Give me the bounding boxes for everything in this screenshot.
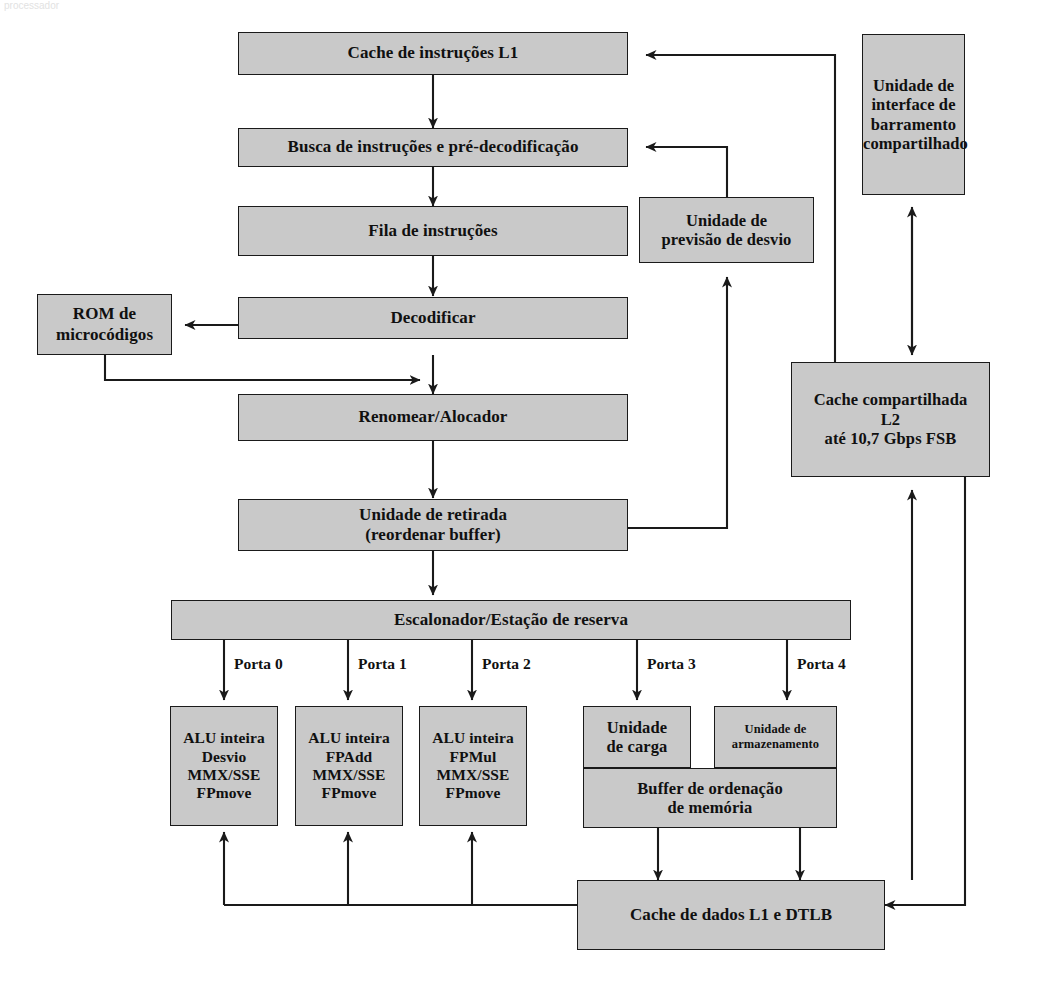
exec-unit-2-line1: ALU inteira [424, 729, 522, 747]
branch-prediction-line1: Unidade de [644, 211, 809, 230]
bus-interface-unit-line2: interface de [863, 95, 964, 114]
branch-prediction-box: Unidade de previsão de desvio [639, 197, 814, 263]
memory-order-buffer-box: Buffer de ordenação de memória [583, 768, 837, 828]
bus-interface-unit-line3: barramento [863, 115, 964, 134]
retirement-unit-box: Unidade de retirada (reordenar buffer) [238, 499, 628, 551]
rename-allocate-box: Renomear/Alocador [238, 394, 628, 441]
instruction-queue-box: Fila de instruções [238, 206, 628, 256]
store-unit-line2: armazenamento [719, 737, 832, 752]
exec-unit-0-line3: MMX/SSE [175, 766, 273, 784]
memory-order-buffer-line1: Buffer de ordenação [588, 779, 832, 798]
architecture-diagram: processador [0, 0, 1043, 986]
load-unit-line1: Unidade [588, 718, 686, 737]
microcode-rom-box: ROM de microcódigos [37, 294, 172, 355]
exec-unit-port2-box: ALU inteira FPMul MMX/SSE FPmove [419, 706, 527, 826]
exec-unit-2-line2: FPMul [424, 748, 522, 766]
bus-interface-unit-line1: Unidade de [863, 76, 964, 95]
load-unit-line2: de carga [588, 737, 686, 756]
scan-artifact-text: processador [4, 0, 194, 12]
exec-unit-1-line1: ALU inteira [300, 729, 398, 747]
porta-1-label: Porta 1 [358, 655, 407, 673]
exec-unit-port1-box: ALU inteira FPAdd MMX/SSE FPmove [295, 706, 403, 826]
porta-4-label: Porta 4 [797, 655, 846, 673]
exec-unit-port0-box: ALU inteira Desvio MMX/SSE FPmove [170, 706, 278, 826]
exec-unit-1-line4: FPmove [300, 784, 398, 802]
exec-unit-0-line1: ALU inteira [175, 729, 273, 747]
decode-box: Decodificar [238, 297, 628, 339]
exec-unit-2-line3: MMX/SSE [424, 766, 522, 784]
porta-3-label: Porta 3 [647, 655, 696, 673]
l2-shared-cache-line2: L2 [796, 410, 985, 429]
fetch-predecode-label: Busca de instruções e pré-decodificação [239, 137, 627, 157]
exec-unit-0-line4: FPmove [175, 784, 273, 802]
porta-0-label: Porta 0 [234, 655, 283, 673]
microcode-rom-line2: microcódigos [42, 325, 167, 345]
branch-prediction-line2: previsão de desvio [644, 230, 809, 249]
rename-allocate-label: Renomear/Alocador [239, 407, 627, 427]
retirement-unit-line1: Unidade de retirada [243, 505, 623, 525]
exec-unit-0-line2: Desvio [175, 748, 273, 766]
exec-unit-1-line2: FPAdd [300, 748, 398, 766]
l1-instruction-cache-box: Cache de instruções L1 [238, 32, 628, 75]
store-unit-line1: Unidade de [719, 722, 832, 737]
retirement-unit-line2: (reordenar buffer) [243, 525, 623, 545]
instruction-queue-label: Fila de instruções [239, 221, 627, 241]
l1-instruction-cache-label: Cache de instruções L1 [239, 43, 627, 63]
fetch-predecode-box: Busca de instruções e pré-decodificação [238, 128, 628, 167]
l2-shared-cache-line1: Cache compartilhada [796, 390, 985, 409]
l2-shared-cache-line3: até 10,7 Gbps FSB [796, 429, 985, 448]
scheduler-box: Escalonador/Estação de reserva [171, 600, 851, 640]
exec-unit-2-line4: FPmove [424, 784, 522, 802]
porta-2-label: Porta 2 [482, 655, 531, 673]
scheduler-label: Escalonador/Estação de reserva [172, 610, 850, 630]
microcode-rom-line1: ROM de [42, 304, 167, 324]
bus-interface-unit-box: Unidade de interface de barramento compa… [862, 34, 965, 195]
store-unit-box: Unidade de armazenamento [714, 706, 837, 768]
memory-order-buffer-line2: de memória [588, 798, 832, 817]
bus-interface-unit-line4: compartilhado [863, 134, 964, 153]
l1-data-cache-box: Cache de dados L1 e DTLB [577, 880, 885, 950]
decode-label: Decodificar [239, 308, 627, 328]
load-unit-box: Unidade de carga [583, 706, 691, 768]
l2-shared-cache-box: Cache compartilhada L2 até 10,7 Gbps FSB [791, 362, 990, 477]
exec-unit-1-line3: MMX/SSE [300, 766, 398, 784]
l1-data-cache-label: Cache de dados L1 e DTLB [578, 905, 884, 925]
